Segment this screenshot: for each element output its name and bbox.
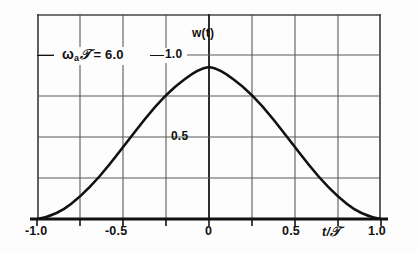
y-label-0-5: 0.5	[171, 129, 188, 143]
curve-name-label: w(t)	[192, 26, 214, 40]
x-axis-title: t/𝒯	[322, 224, 340, 240]
annotation-omega-a-T: ωa𝒯= 6.0	[59, 47, 127, 65]
x-axis-title-script-T: 𝒯	[330, 224, 340, 239]
script-T-symbol: 𝒯	[79, 47, 91, 62]
plot-area	[37, 14, 381, 219]
annotation-value: = 6.0	[91, 47, 123, 62]
figure-canvas: ωa𝒯= 6.0 w(t) 1.0 0.5 -1.0 -0.5 0 0.5 1.…	[0, 0, 418, 254]
x-tick-label-plus-0-5: 0.5	[282, 224, 300, 238]
annotation-dash-left	[37, 55, 54, 56]
curve-w-of-t	[37, 14, 381, 219]
omega-symbol: ω	[62, 46, 74, 62]
y-label-1-0: 1.0	[165, 47, 182, 61]
x-tick-label-plus-1-0: 1.0	[368, 224, 386, 238]
x-tick-label-zero: 0	[205, 224, 212, 238]
annotation-dash-right	[150, 55, 164, 56]
x-tick-label-minus-1-0: -1.0	[25, 224, 47, 238]
x-tick-label-minus-0-5: -0.5	[105, 224, 127, 238]
